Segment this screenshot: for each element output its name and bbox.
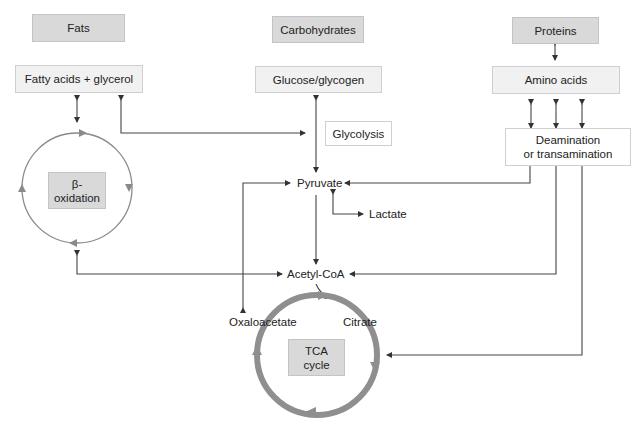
beta-oxidation-box: β- oxidation <box>48 172 106 209</box>
carbohydrates-label: Carbohydrates <box>280 23 355 37</box>
beta-oxidation-label-line2: oxidation <box>54 191 100 205</box>
tca-cycle-label-line2: cycle <box>303 358 329 372</box>
fats-label: Fats <box>67 21 89 35</box>
glucose-glycogen-label: Glucose/glycogen <box>273 73 364 87</box>
tca-cycle-box: TCA cycle <box>288 339 345 376</box>
fatty-acids-box: Fatty acids + glycerol <box>15 65 143 93</box>
proteins-box: Proteins <box>512 17 599 44</box>
fats-box: Fats <box>32 14 125 42</box>
deamination-label-line2: or transamination <box>524 147 613 161</box>
glycolysis-box: Glycolysis <box>325 121 392 146</box>
acetyl-coa-label: Acetyl-CoA <box>287 268 345 280</box>
deamination-box: Deamination or transamination <box>505 128 631 166</box>
deamination-label-line1: Deamination <box>536 133 601 147</box>
beta-oxidation-label-line1: β- <box>72 177 82 191</box>
proteins-label: Proteins <box>534 24 576 38</box>
amino-acids-box: Amino acids <box>492 66 620 94</box>
amino-acids-label: Amino acids <box>525 73 588 87</box>
oxaloacetate-label: Oxaloacetate <box>229 316 297 328</box>
fatty-acids-label: Fatty acids + glycerol <box>25 72 133 86</box>
pyruvate-label: Pyruvate <box>297 177 342 189</box>
glycolysis-label: Glycolysis <box>333 127 385 141</box>
citrate-label: Citrate <box>343 316 377 328</box>
tca-cycle-label-line1: TCA <box>305 344 328 358</box>
carbohydrates-box: Carbohydrates <box>272 16 364 43</box>
lactate-label: Lactate <box>369 208 407 220</box>
glucose-glycogen-box: Glucose/glycogen <box>255 66 382 93</box>
